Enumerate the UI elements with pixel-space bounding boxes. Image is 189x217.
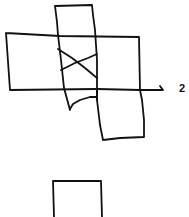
curve-stroke (70, 97, 97, 109)
bottom-rectangle (53, 181, 102, 217)
cross-mark-line-2 (61, 54, 97, 70)
sketch-canvas: 2 (0, 0, 189, 217)
cross-mark-line-1 (58, 49, 97, 78)
lower-right-rectangle (97, 89, 144, 140)
axis-label: 2 (179, 82, 185, 94)
axis-arrow (97, 86, 163, 90)
wide-horizontal-rectangle (6, 33, 140, 90)
